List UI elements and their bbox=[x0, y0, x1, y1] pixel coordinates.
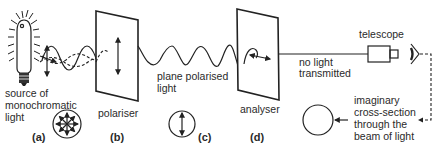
analyser-label: analyser bbox=[240, 103, 280, 115]
source-label: source of monochromatic light bbox=[5, 87, 80, 123]
tag-a: (a) bbox=[32, 131, 46, 143]
plane-polarised-label: plane polarised light bbox=[157, 70, 231, 94]
telescope-icon bbox=[368, 46, 398, 62]
no-light-label: no light transmitted bbox=[299, 56, 351, 79]
dashed-pointer bbox=[419, 54, 431, 120]
analyser-plate bbox=[237, 9, 279, 100]
unpolarised-cross-section bbox=[53, 110, 81, 138]
eye-icon bbox=[411, 44, 419, 64]
polarised-cross-section bbox=[169, 111, 195, 137]
tag-d: (d) bbox=[250, 131, 264, 143]
tag-c: (c) bbox=[198, 131, 212, 143]
polariser-label: polariser bbox=[98, 107, 139, 119]
empty-cross-section bbox=[303, 105, 348, 135]
light-bulb-icon bbox=[8, 10, 40, 86]
polarisation-diagram: source of monochromatic light polariser … bbox=[0, 0, 438, 152]
cross-section-label: imaginary cross-section through the beam… bbox=[354, 94, 419, 142]
telescope-label: telescope bbox=[359, 28, 404, 40]
tag-b: (b) bbox=[110, 131, 124, 143]
polariser-plate bbox=[96, 11, 138, 101]
plane-polarised-wave bbox=[138, 45, 244, 70]
